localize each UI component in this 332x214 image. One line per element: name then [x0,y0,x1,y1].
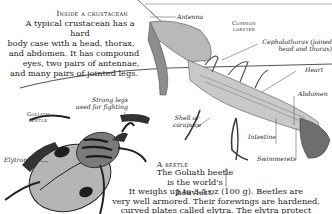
label-heart: Heart [305,66,323,73]
crustacean-line-3: and abdomen. It has compound [4,48,144,58]
crustacean-line-5: and many pairs of jointed legs. [4,68,144,78]
label-shell-line-2: carapace [170,121,204,128]
lobster-caption-line-2: lobster [224,26,264,32]
label-swimmerets: Swimmerets [257,155,296,162]
crustacean-body: A typical crustacean has a hard body cas… [4,18,144,78]
label-abdomen: Abdomen [298,90,328,97]
label-antenna: Antenna [177,13,203,20]
crustacean-heading: Inside a crustacean [50,9,128,18]
beetle-body-main: It weighs up to 3.5 oz (100 g). Beetles … [100,187,332,214]
beetle-caption: Goliath beetle [18,111,58,123]
label-elytron: Elytron [4,156,27,163]
label-strong-legs: Strong legs used for fighting [74,96,128,110]
beetle-line-1: The Goliath beetle [150,167,240,177]
label-cephalothorax-line-2: head and thorax) [256,45,332,52]
label-intestine: Intestine [248,133,276,140]
beetle-line-5: curved plates called elytra. The elytra … [100,206,332,214]
lobster-caption: Common lobster [224,20,264,32]
label-shell-line-1: Shell or [170,114,204,121]
crustacean-line-1: A typical crustacean has a hard [4,18,144,38]
label-cephalothorax-line-1: Cephalothorax (joined [256,38,332,45]
label-cephalothorax: Cephalothorax (joined head and thorax) [256,38,332,52]
crustacean-line-2: body case with a head, thorax, [4,38,144,48]
beetle-caption-line-2: beetle [18,117,58,123]
crustacean-line-4: eyes, two pairs of antennae, [4,58,144,68]
label-strong-legs-line-1: Strong legs [74,96,128,103]
label-shell: Shell or carapace [170,114,204,128]
label-strong-legs-line-2: used for fighting [74,103,128,110]
